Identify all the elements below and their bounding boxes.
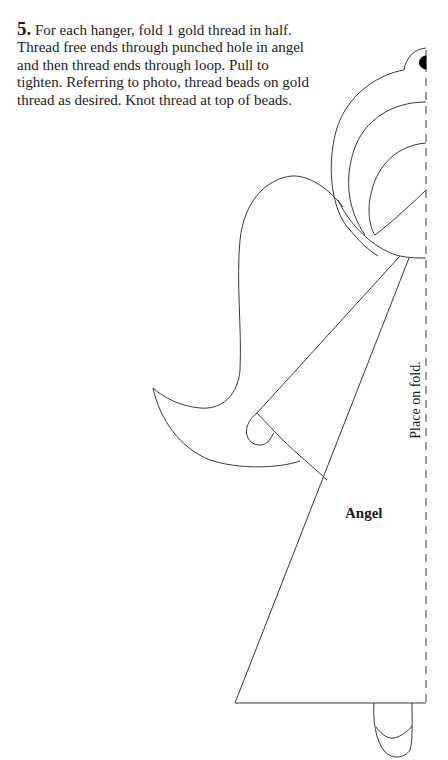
punched-hole-icon	[420, 56, 426, 69]
sleeve-cuff-line	[257, 413, 327, 480]
fold-label: Place on fold.	[408, 361, 424, 438]
piece-label: Angel	[345, 505, 383, 522]
angel-pattern	[0, 0, 448, 760]
foot-outline	[374, 703, 412, 757]
hand-outline	[246, 413, 274, 445]
foot-detail-curve	[376, 726, 412, 738]
sleeve-line	[257, 256, 400, 413]
hair-inner-curve	[369, 143, 426, 235]
gown-side-line	[235, 258, 409, 703]
head-outer-outline	[331, 48, 426, 256]
hair-middle-curve	[349, 102, 426, 235]
